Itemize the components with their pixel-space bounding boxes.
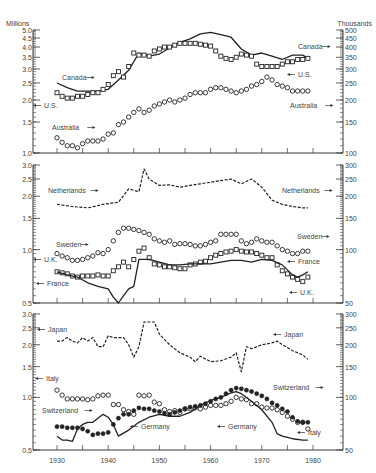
y-tick-right: 500: [345, 27, 357, 34]
y-tick-left: 1.5: [22, 119, 32, 126]
y-tick-left: 2.5: [22, 80, 32, 87]
x-tick-label: 1960: [203, 457, 219, 464]
series-label-text: U.S.: [298, 71, 312, 78]
y-tick-left: 0.5: [22, 300, 32, 307]
series-label: France: [36, 280, 69, 287]
x-axis: 193019401950196019701980: [49, 457, 321, 464]
series-netherlands: [57, 169, 308, 208]
y-tick-left: 3.5: [22, 54, 32, 61]
series-label-text: Italy: [308, 429, 321, 437]
y-tick-right: 200: [345, 97, 357, 104]
y-tick-left: 1.0: [22, 394, 32, 401]
y-tick-right: 450: [345, 35, 357, 42]
x-tick-label: 1940: [100, 457, 116, 464]
series-label: Australia: [290, 102, 333, 109]
series-switzerland: [55, 386, 310, 437]
y-tick-right: 100: [345, 394, 357, 401]
y-tick-left: 2.0: [22, 97, 32, 104]
series-label: U.S.: [33, 102, 58, 109]
right-axis-unit: Thousands: [337, 20, 372, 27]
y-tick-right: 250: [345, 80, 357, 87]
series-label-text: Netherlands: [282, 187, 320, 194]
y-tick-right: 100: [345, 247, 357, 254]
series-label-text: Japan: [284, 331, 303, 339]
series-label-text: U.S.: [44, 102, 58, 109]
series-label-text: Germany: [141, 423, 170, 431]
y-tick-right: 400: [345, 44, 357, 51]
y-tick-left: 2.0: [22, 342, 32, 349]
series-label: U.K.: [289, 289, 314, 296]
y-tick-right: 300: [345, 66, 357, 73]
series-label: Italy: [297, 429, 321, 437]
y-tick-left: 2.5: [22, 176, 32, 183]
series-label-text: Switzerland: [42, 407, 78, 414]
series-label: Japan: [37, 326, 67, 334]
series-label: Japan: [273, 331, 303, 339]
y-tick-right: 150: [345, 119, 357, 126]
x-tick-label: 1970: [254, 457, 270, 464]
panel-bottom: 0.5501.01001.51502.02002.52503.0300Japan…: [22, 311, 357, 454]
series-label-text: Canada: [298, 43, 323, 50]
series-label: Italy: [35, 375, 59, 383]
y-tick-right: 50: [345, 300, 353, 307]
series-label: Netherlands: [48, 187, 99, 194]
y-tick-left: 1.0: [22, 247, 32, 254]
y-tick-left: 3.0: [22, 162, 32, 169]
chart-canvas: MillionsThousands1.01001.51502.02002.525…: [0, 0, 376, 473]
panel-top: 1.01001.51502.02002.52503.03003.53504.04…: [22, 27, 357, 157]
x-tick-label: 1950: [152, 457, 168, 464]
series-italy: [55, 388, 310, 431]
series-label: Canada: [62, 74, 95, 81]
series-label: Canada: [298, 43, 331, 50]
series-label-text: Australia: [52, 124, 79, 131]
y-tick-left: 1.0: [22, 150, 32, 157]
series-label: Sweden: [56, 241, 89, 248]
series-label-text: U.K.: [44, 256, 58, 263]
y-tick-right: 250: [345, 325, 357, 332]
series-japan: [57, 322, 308, 372]
series-label: U.K.: [33, 256, 58, 263]
series-canada: [57, 32, 308, 91]
y-tick-right: 250: [345, 176, 357, 183]
series-label: Switzerland: [273, 384, 324, 391]
y-tick-right: 50: [345, 447, 353, 454]
series-u-s-: [55, 41, 310, 100]
y-tick-right: 200: [345, 193, 357, 200]
x-tick-label: 1930: [49, 457, 65, 464]
y-tick-left: 1.5: [22, 364, 32, 371]
x-tick-label: 1980: [305, 457, 321, 464]
y-tick-left: 3.0: [22, 311, 32, 318]
series-label-text: Sweden: [297, 233, 322, 240]
series-label-text: Italy: [46, 375, 59, 383]
left-axis-unit: Millions: [6, 20, 30, 27]
y-tick-right: 150: [345, 364, 357, 371]
y-tick-left: 1.5: [22, 215, 32, 222]
y-tick-left: 4.5: [22, 35, 32, 42]
series-label-text: Switzerland: [273, 384, 309, 391]
y-tick-right: 150: [345, 215, 357, 222]
y-tick-left: 3.0: [22, 66, 32, 73]
y-tick-left: 2.0: [22, 193, 32, 200]
series-label: Australia: [52, 124, 95, 131]
series-label: Germany: [217, 423, 257, 431]
y-tick-right: 350: [345, 54, 357, 61]
y-tick-left: 2.5: [22, 325, 32, 332]
panel-middle: 0.5501.01001.51502.02002.52503.0300Nethe…: [22, 162, 357, 307]
series-label: U.S.: [287, 71, 312, 78]
series-label-text: France: [298, 258, 320, 265]
y-tick-left: 0.5: [22, 447, 32, 454]
series-label: France: [287, 258, 320, 265]
y-tick-right: 300: [345, 311, 357, 318]
series-label: Switzerland: [42, 407, 93, 414]
series-label: Netherlands: [282, 187, 333, 194]
y-tick-left: 4.0: [22, 44, 32, 51]
series-label-text: France: [47, 280, 69, 287]
series-label-text: Australia: [290, 102, 317, 109]
series-label-text: U.K.: [300, 289, 314, 296]
y-tick-right: 300: [345, 162, 357, 169]
series-label-text: Canada: [62, 74, 87, 81]
series-label-text: Germany: [228, 423, 257, 431]
series-label: Sweden: [297, 233, 330, 240]
series-label-text: Sweden: [56, 241, 81, 248]
series-label-text: Japan: [48, 326, 67, 334]
